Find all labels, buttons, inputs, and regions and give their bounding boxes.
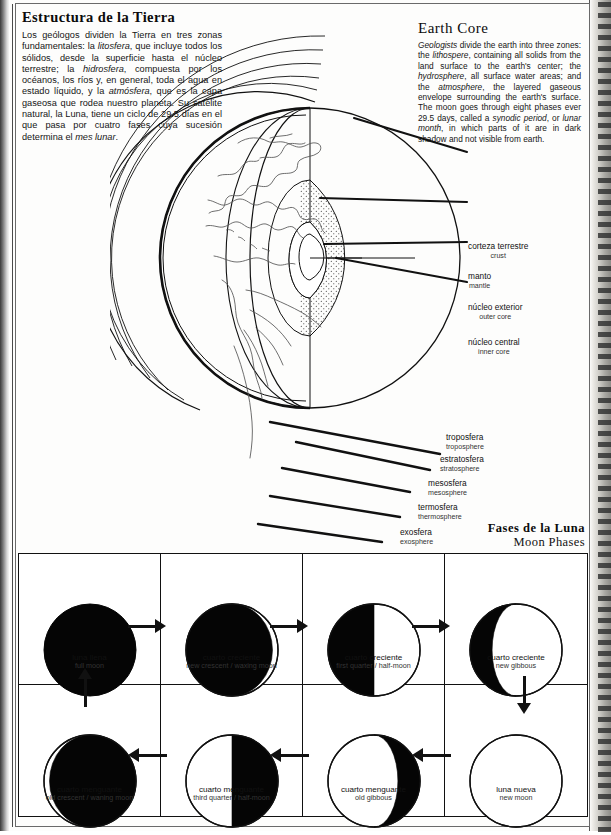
earth-label-outer-core: núcleo exterior outer core (468, 303, 522, 321)
perforation-tick (598, 816, 611, 821)
perforation-tick (598, 46, 611, 51)
perforation-tick (598, 420, 611, 425)
arrow-left-1 (412, 748, 452, 763)
paragraph-run: , or (547, 113, 563, 123)
perforation-tick (598, 574, 611, 579)
perforation-tick (598, 255, 611, 260)
perforation-tick (598, 134, 611, 139)
perforation-tick (598, 200, 611, 205)
perforation-tick (598, 68, 611, 73)
perforation-tick (598, 640, 611, 645)
arrow-right-1 (128, 619, 168, 634)
perforation-tick (598, 244, 611, 249)
moon-phase-caption: cuarto crecientefirst quarter / half-moo… (303, 653, 444, 671)
perforation-tick (598, 486, 611, 491)
perforation-tick (598, 629, 611, 634)
perforation-tick (598, 178, 611, 183)
perforation-tick (598, 332, 611, 337)
perforation-tick (598, 552, 611, 557)
perforation-tick (598, 2, 611, 7)
moon-phases-title-en: Moon Phases (430, 535, 585, 549)
perforation-tick (598, 475, 611, 480)
perforation-tick (598, 277, 611, 282)
perforation-tick (598, 101, 611, 106)
perforation-tick (598, 695, 611, 700)
perforation-tick (598, 783, 611, 788)
perforation-tick (598, 706, 611, 711)
perforation-tick (598, 24, 611, 29)
moon-phase-caption: cuarto menguanteold crescent / waning mo… (19, 785, 160, 803)
perforation-tick (598, 310, 611, 315)
scan-right-perforation-band (589, 0, 611, 831)
earth-label-crust: corteza terrestre crust (468, 242, 528, 260)
perforation-tick (598, 728, 611, 733)
perforation-tick (598, 145, 611, 150)
perforation-tick (598, 541, 611, 546)
moon-phase-label-en: old crescent / waning moon (19, 794, 160, 803)
earth-label-exosphere: exosfera exosphere (400, 528, 433, 546)
earth-label-mantle: manto mantle (468, 272, 491, 290)
perforation-tick (598, 57, 611, 62)
perforation-tick (598, 717, 611, 722)
perforation-tick (598, 772, 611, 777)
moon-phases-title-es: Fases de la Luna (430, 521, 585, 535)
perforation-tick (598, 827, 611, 832)
perforation-tick (598, 167, 611, 172)
scan-left-gutter (0, 0, 9, 831)
perforation-tick (598, 530, 611, 535)
moon-phase-icon (324, 731, 424, 835)
perforation-tick (598, 123, 611, 128)
scan-left-rule (12, 4, 13, 827)
perforation-tick (598, 442, 611, 447)
perforation-tick (598, 299, 611, 304)
perforation-tick (598, 376, 611, 381)
perforation-tick (598, 453, 611, 458)
perforation-tick (598, 673, 611, 678)
perforation-tick (598, 794, 611, 799)
perforation-tick (598, 288, 611, 293)
perforation-tick (598, 618, 611, 623)
moon-phase-label-en: new crescent / waxing moon (161, 662, 302, 671)
perforation-tick (598, 409, 611, 414)
earth-label-stratosphere: estratosfera stratosphere (440, 455, 484, 473)
page-title-es: Estructura de la Tierra (22, 9, 222, 26)
moon-phase-cell: luna nuevanew moon (445, 685, 587, 816)
perforation-tick (598, 398, 611, 403)
perforation-tick (598, 365, 611, 370)
perforation-tick (598, 585, 611, 590)
perforation-tick (598, 13, 611, 18)
scan-right-edge-rule (589, 0, 590, 831)
earth-cutaway-diagram (110, 30, 470, 550)
moon-phase-caption: luna nuevanew moon (445, 785, 587, 803)
perforation-tick (598, 607, 611, 612)
arrow-right-2 (270, 619, 310, 634)
moon-phase-cell: cuarto crecientenew gibbous (445, 554, 587, 685)
perforation-tick (598, 354, 611, 359)
perforation-tick (598, 684, 611, 689)
perforation-tick (598, 90, 611, 95)
earth-label-thermosphere: termosfera thermosphere (418, 503, 462, 521)
perforation-tick (598, 651, 611, 656)
perforation-tick (598, 464, 611, 469)
moon-phase-label-en: third quarter / half-moon (161, 794, 302, 803)
arrow-right-3 (412, 619, 452, 634)
moon-phase-icon (466, 731, 566, 835)
perforation-tick (598, 431, 611, 436)
perforation-tick (598, 750, 611, 755)
earth-label-inner-core: núcleo central inner core (468, 338, 520, 356)
perforation-tick (598, 519, 611, 524)
arrow-left-2 (270, 748, 310, 763)
perforation-tick (598, 387, 611, 392)
perforation-tick (598, 739, 611, 744)
perforation-tick (598, 222, 611, 227)
arrow-left-3 (128, 748, 168, 763)
perforation-tick (598, 761, 611, 766)
moon-phase-label-en: new gibbous (445, 662, 587, 671)
earth-label-troposphere: troposfera troposphere (446, 433, 484, 451)
arrow-up-cycle (78, 668, 93, 708)
perforation-tick (598, 662, 611, 667)
perforation-tick (598, 189, 611, 194)
moon-phase-label-en: first quarter / half-moon (303, 662, 444, 671)
perforation-tick (598, 343, 611, 348)
